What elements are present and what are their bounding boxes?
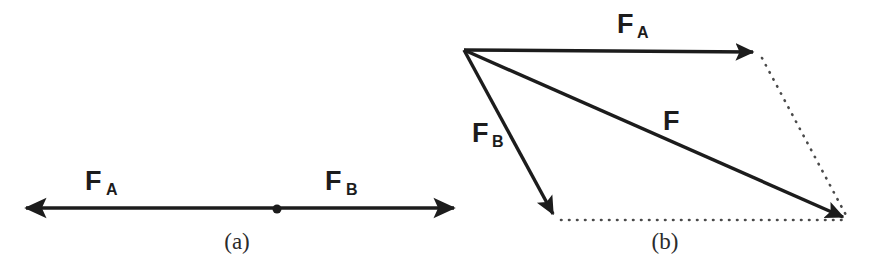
vector-arrow-fa-panel-b [464,50,753,52]
label-fa-panel-a: F [85,166,102,196]
construction-line-from-fa-tip [762,58,847,217]
figure-canvas: F A F B (a) F A F B F (b) [0,0,874,266]
panel-a: F A F B (a) [26,166,454,254]
label-resultant-f-panel-b: F [663,106,680,136]
label-fa-panel-b: F [617,9,634,39]
caption-panel-b: (b) [652,229,679,254]
panel-b: F A F B F (b) [464,9,847,254]
pivot-point-dot [273,205,282,214]
caption-panel-a: (a) [224,229,250,254]
vector-arrow-resultant-panel-b [464,50,843,217]
force-diagram-figure: F A F B (a) F A F B F (b) [0,0,874,266]
label-fb-panel-b: F [472,118,489,148]
label-fa-subscript-panel-b: A [637,24,649,41]
label-fa-subscript-panel-a: A [106,181,118,198]
label-fb-subscript-panel-b: B [492,133,504,150]
label-fb-subscript-panel-a: B [346,181,358,198]
label-fb-panel-a: F [325,166,342,196]
